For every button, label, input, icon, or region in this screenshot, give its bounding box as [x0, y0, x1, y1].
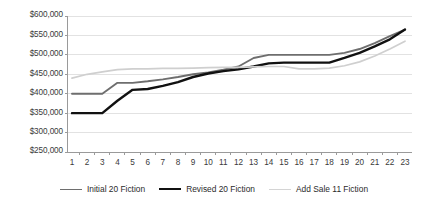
x-tick-label: 16: [294, 158, 303, 167]
x-tick-label: 23: [400, 158, 409, 167]
x-tick-label: 1: [70, 158, 75, 167]
x-tick-label: 5: [130, 158, 135, 167]
x-tick-label: 18: [325, 158, 334, 167]
x-tick-label: 3: [100, 158, 105, 167]
x-tick-label: 17: [310, 158, 319, 167]
chart-legend: Initial 20 FictionRevised 20 FictionAdd …: [0, 181, 428, 197]
legend-swatch-line-icon: [269, 189, 291, 190]
x-tick-label: 8: [176, 158, 181, 167]
legend-label: Revised 20 Fiction: [186, 184, 255, 194]
legend-item[interactable]: Initial 20 Fiction: [60, 184, 145, 194]
x-tick-label: 22: [385, 158, 394, 167]
legend-label: Initial 20 Fiction: [87, 184, 145, 194]
line-chart: $250,000$300,000$350,000$400,000$450,000…: [0, 0, 428, 209]
x-tick-label: 9: [191, 158, 196, 167]
x-tick-label: 21: [370, 158, 379, 167]
x-tick-label: 10: [204, 158, 213, 167]
x-tick-label: 6: [145, 158, 150, 167]
x-tick-label: 20: [355, 158, 364, 167]
x-tick-label: 7: [161, 158, 166, 167]
legend-swatch-line-icon: [159, 188, 181, 190]
x-tick-label: 13: [249, 158, 258, 167]
x-tick-label: 14: [264, 158, 273, 167]
legend-label: Add Sale 11 Fiction: [296, 184, 368, 194]
legend-swatch-line-icon: [60, 189, 82, 190]
x-tick-label: 15: [279, 158, 288, 167]
x-tick-label: 11: [219, 158, 228, 167]
x-tick-label: 2: [85, 158, 90, 167]
x-tick-label: 4: [115, 158, 120, 167]
legend-item[interactable]: Add Sale 11 Fiction: [269, 184, 368, 194]
legend-item[interactable]: Revised 20 Fiction: [159, 184, 255, 194]
x-tick-label: 19: [340, 158, 349, 167]
x-tick-label: 12: [234, 158, 243, 167]
x-axis-tick-labels: 1234567891011121314151617181920212223: [0, 0, 428, 209]
